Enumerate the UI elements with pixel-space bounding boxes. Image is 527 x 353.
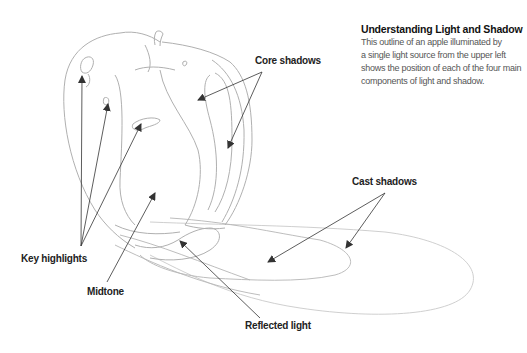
cast-shadows-arrows: [268, 193, 385, 262]
label-core-shadows: Core shadows: [255, 55, 321, 66]
caption-body: This outline of an apple illuminated by …: [361, 36, 527, 88]
apple-outline: [64, 31, 252, 260]
caption: Understanding Light and Shadow This outl…: [361, 23, 527, 88]
cast-shadow-inner: [115, 218, 351, 295]
label-key-highlights: Key highlights: [21, 253, 87, 264]
label-reflected-light: Reflected light: [245, 320, 311, 331]
label-midtone: Midtone: [87, 286, 124, 297]
key-highlights-arrows: [81, 76, 141, 246]
caption-line: shows the position of each of the four m…: [361, 62, 527, 75]
label-cast-shadows: Cast shadows: [352, 176, 417, 187]
midtone-arrow: [107, 193, 155, 282]
caption-title: Understanding Light and Shadow: [361, 23, 527, 36]
caption-line: This outline of an apple illuminated by: [361, 36, 527, 49]
caption-line: components of light and shadow.: [361, 75, 527, 88]
caption-line: a single light source from the upper lef…: [361, 49, 527, 62]
